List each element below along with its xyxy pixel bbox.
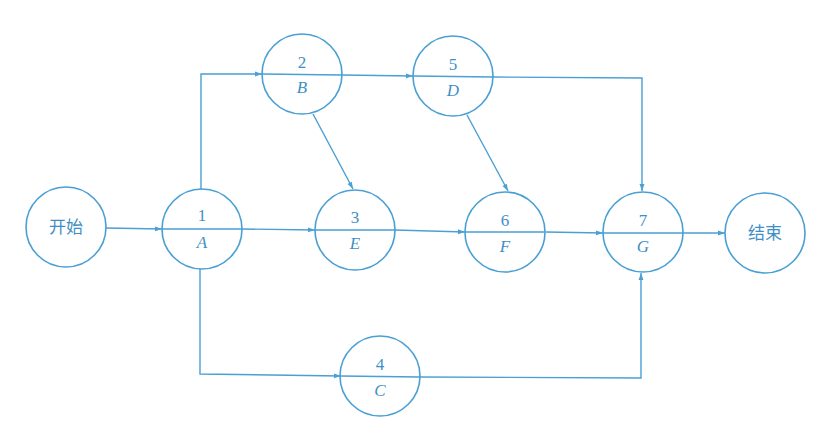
node-4: 4 C: [340, 336, 420, 416]
node-5-activity: D: [446, 81, 460, 100]
node-7-activity: G: [637, 237, 649, 256]
node-2: 2 B: [262, 34, 342, 114]
node-end-label: 结束: [748, 223, 782, 243]
node-3: 3 E: [315, 190, 395, 270]
edge-start-1: [106, 228, 162, 229]
edge-2-3: [313, 114, 353, 189]
network-diagram: 开始 1 A 2 B 3 E 4 C 5 D 6 F: [0, 0, 829, 437]
node-6-number: 6: [501, 211, 510, 230]
node-3-number: 3: [351, 208, 360, 227]
edge-3-6: [395, 230, 465, 232]
node-7-number: 7: [639, 211, 648, 230]
node-4-number: 4: [376, 355, 385, 374]
node-1-number: 1: [198, 206, 207, 225]
node-2-activity: B: [297, 78, 308, 97]
edge-1-2: [201, 74, 262, 189]
node-6: 6 F: [465, 192, 545, 272]
edge-4-7: [420, 273, 641, 378]
node-end: 结束: [725, 193, 805, 273]
node-4-activity: C: [374, 381, 386, 400]
node-5-number: 5: [449, 55, 458, 74]
node-start-label: 开始: [49, 217, 83, 237]
edge-5-7: [493, 77, 642, 191]
node-start: 开始: [26, 187, 106, 267]
node-3-activity: E: [349, 234, 361, 253]
node-6-activity: F: [499, 237, 511, 256]
edge-6-7: [546, 232, 603, 233]
node-7: 7 G: [603, 192, 683, 272]
edge-5-6: [467, 115, 508, 191]
edge-1-4: [200, 269, 341, 376]
node-1: 1 A: [162, 189, 242, 269]
edge-1-3: [242, 229, 315, 230]
node-1-activity: A: [196, 233, 208, 252]
node-5: 5 D: [413, 36, 493, 116]
edge-2-5: [342, 75, 413, 76]
node-2-number: 2: [298, 53, 307, 72]
